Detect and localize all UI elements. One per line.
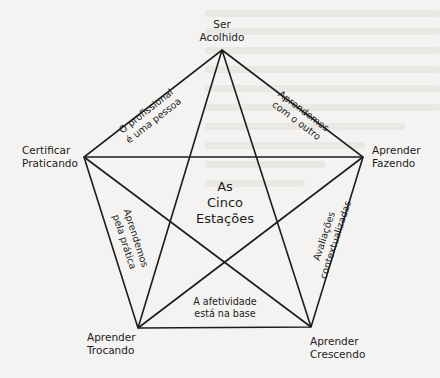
vertex-label-aprender-fazendo: Aprender Fazendo: [372, 144, 421, 170]
edge-label-bottom: A afetividade está na base: [170, 296, 280, 320]
vertex-label-ser-acolhido: Ser Acolhido: [192, 18, 252, 44]
vertex-label-certificar-praticando: Certificar Praticando: [22, 144, 78, 170]
vertex-label-aprender-crescendo: Aprender Crescendo: [310, 335, 365, 361]
vertex-label-aprender-trocando: Aprender Trocando: [87, 331, 136, 357]
diagram-title: As Cinco Estações: [180, 179, 270, 227]
